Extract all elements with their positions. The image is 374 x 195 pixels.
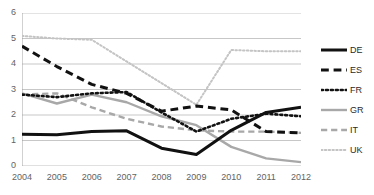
legend-swatch-gr <box>321 105 347 115</box>
x-tick-label: 2004 <box>5 172 39 182</box>
legend-item-uk[interactable]: UK <box>306 140 372 160</box>
x-tick-label: 2009 <box>179 172 213 182</box>
legend-label-gr: GR <box>350 105 372 115</box>
plot-area <box>22 13 301 166</box>
legend-item-gr[interactable]: GR <box>306 100 372 120</box>
chart-legend: DEESFRGRITUK <box>306 40 372 160</box>
legend-label-es: ES <box>350 65 372 75</box>
x-tick-label: 2012 <box>284 172 318 182</box>
plot-canvas <box>22 13 301 166</box>
x-tick-label: 2008 <box>145 172 179 182</box>
y-tick-label: 6 <box>2 7 16 17</box>
y-tick-label: 3 <box>2 84 16 94</box>
legend-item-it[interactable]: IT <box>306 120 372 140</box>
line-chart: 0123456 20042005200620072008200920102011… <box>0 0 374 195</box>
legend-item-es[interactable]: ES <box>306 60 372 80</box>
x-tick-label: 2005 <box>40 172 74 182</box>
legend-label-fr: FR <box>350 85 372 95</box>
legend-label-it: IT <box>350 125 372 135</box>
legend-swatch-uk <box>321 145 347 155</box>
series-line-uk <box>22 36 301 105</box>
y-tick-label: 2 <box>2 109 16 119</box>
legend-swatch-es <box>321 65 347 75</box>
legend-swatch-it <box>321 125 347 135</box>
legend-item-de[interactable]: DE <box>306 40 372 60</box>
x-tick-label: 2010 <box>214 172 248 182</box>
y-tick-label: 4 <box>2 58 16 68</box>
x-tick-label: 2006 <box>75 172 109 182</box>
y-tick-label: 5 <box>2 33 16 43</box>
x-tick-label: 2011 <box>249 172 283 182</box>
legend-item-fr[interactable]: FR <box>306 80 372 100</box>
legend-swatch-de <box>321 45 347 55</box>
legend-label-uk: UK <box>350 145 372 155</box>
x-tick-label: 2007 <box>110 172 144 182</box>
y-tick-label: 1 <box>2 135 16 145</box>
legend-label-de: DE <box>350 45 372 55</box>
legend-swatch-fr <box>321 85 347 95</box>
y-tick-label: 0 <box>2 160 16 170</box>
